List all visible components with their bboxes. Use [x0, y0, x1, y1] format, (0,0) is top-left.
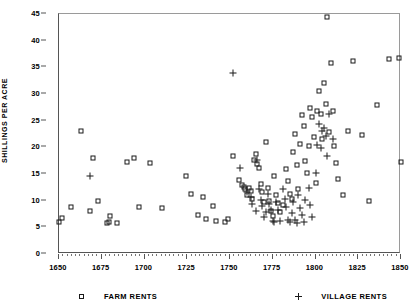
data-point-village — [237, 165, 244, 172]
x-minor-tick — [332, 254, 333, 256]
data-point-village — [230, 69, 237, 76]
x-minor-tick — [191, 254, 192, 256]
x-minor-tick — [280, 254, 281, 256]
x-tick-label: 1700 — [135, 263, 153, 272]
x-tick-mark — [186, 254, 187, 259]
data-point-village — [280, 186, 287, 193]
data-point-village — [321, 125, 328, 132]
legend-label-farm-rents: FARM RENTS — [104, 292, 157, 301]
x-minor-tick — [135, 254, 136, 256]
data-point-farm — [115, 221, 120, 226]
x-minor-tick — [383, 254, 384, 256]
x-tick-label: 1800 — [306, 263, 324, 272]
y-tick-label: 10 — [14, 195, 40, 204]
x-minor-tick — [302, 254, 303, 256]
data-point-farm — [214, 218, 219, 223]
data-point-farm — [200, 194, 205, 199]
y-tick-mark — [41, 146, 46, 147]
x-tick-mark — [400, 254, 401, 259]
x-minor-tick — [319, 254, 320, 256]
x-minor-tick — [173, 254, 174, 256]
data-point-farm — [284, 166, 289, 171]
data-point-farm — [340, 192, 345, 197]
x-minor-tick — [327, 254, 328, 256]
x-minor-tick — [233, 254, 234, 256]
y-tick-label: 40 — [14, 35, 40, 44]
data-point-farm — [313, 181, 318, 186]
data-point-village — [324, 152, 331, 159]
y-tick-label: 20 — [14, 142, 40, 151]
x-minor-tick — [75, 254, 76, 256]
x-minor-tick — [169, 254, 170, 256]
data-point-village — [256, 185, 263, 192]
data-point-farm — [316, 89, 321, 94]
y-tick-label: 30 — [14, 89, 40, 98]
data-point-farm — [308, 106, 313, 111]
data-point-farm — [257, 165, 262, 170]
plus-marker-icon — [294, 292, 303, 301]
x-minor-tick — [118, 254, 119, 256]
data-point-village — [329, 135, 336, 142]
data-point-farm — [263, 140, 268, 145]
y-tick-label: 45 — [14, 9, 40, 18]
data-point-village — [317, 145, 324, 152]
data-point-farm — [397, 55, 402, 60]
x-tick-label: 1750 — [220, 263, 238, 272]
data-point-farm — [304, 171, 309, 176]
x-minor-tick — [62, 254, 63, 256]
data-point-farm — [387, 56, 392, 61]
x-minor-tick — [165, 254, 166, 256]
x-tick-mark — [101, 254, 102, 259]
x-minor-tick — [203, 254, 204, 256]
data-point-village — [288, 209, 295, 216]
y-tick-label: 0 — [14, 249, 40, 258]
data-point-village — [264, 190, 271, 197]
data-point-village — [326, 110, 333, 117]
x-minor-tick — [366, 254, 367, 256]
data-point-farm — [147, 161, 152, 166]
data-point-farm — [325, 14, 330, 19]
x-minor-tick — [195, 254, 196, 256]
data-point-village — [307, 202, 314, 209]
y-tick-label: 35 — [14, 62, 40, 71]
data-point-farm — [272, 174, 277, 179]
data-point-village — [305, 184, 312, 191]
data-point-farm — [306, 144, 311, 149]
x-minor-tick — [79, 254, 80, 256]
x-minor-tick — [208, 254, 209, 256]
data-point-village — [273, 198, 280, 205]
data-point-farm — [108, 213, 113, 218]
data-point-farm — [274, 193, 279, 198]
data-point-farm — [286, 179, 291, 184]
x-minor-tick — [242, 254, 243, 256]
data-point-village — [276, 217, 283, 224]
data-point-farm — [323, 101, 328, 106]
data-point-village — [312, 169, 319, 176]
data-point-village — [309, 214, 316, 221]
x-minor-tick — [212, 254, 213, 256]
x-tick-label: 1650 — [49, 263, 67, 272]
data-point-farm — [359, 132, 364, 137]
square-marker-icon — [77, 292, 86, 301]
x-minor-tick — [88, 254, 89, 256]
x-tick-label: 1825 — [349, 263, 367, 272]
x-tick-mark — [229, 254, 230, 259]
x-minor-tick — [293, 254, 294, 256]
x-minor-tick — [156, 254, 157, 256]
x-minor-tick — [67, 254, 68, 256]
x-minor-tick — [199, 254, 200, 256]
data-point-farm — [322, 81, 327, 86]
data-point-farm — [328, 60, 333, 65]
x-minor-tick — [263, 254, 264, 256]
x-minor-tick — [216, 254, 217, 256]
data-point-farm — [292, 132, 297, 137]
x-minor-tick — [353, 254, 354, 256]
plot-area — [58, 13, 400, 253]
x-minor-tick — [161, 254, 162, 256]
data-point-farm — [137, 204, 142, 209]
x-minor-tick — [148, 254, 149, 256]
data-point-village — [298, 211, 305, 218]
data-point-farm — [310, 115, 315, 120]
data-point-farm — [399, 159, 404, 164]
x-minor-tick — [285, 254, 286, 256]
